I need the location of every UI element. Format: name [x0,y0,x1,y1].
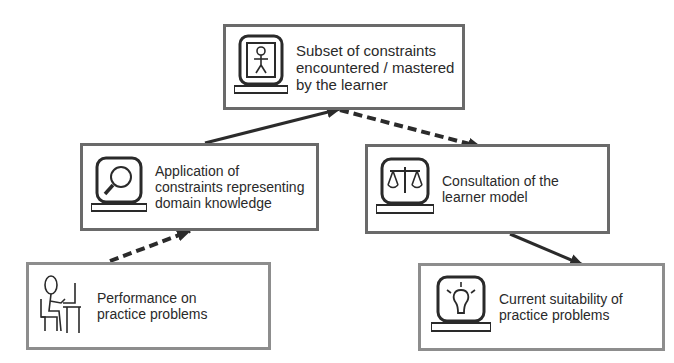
arrow-subset-to-consultation [340,110,481,147]
person-at-computer-icon [35,273,91,339]
node-learner-model-consultation: Consultation of the learner model [365,144,610,234]
node-constraint-application: Application of constraints representing … [80,143,319,231]
node-problem-suitability: Current suitability of practice problems [418,263,665,351]
magnifier-monitor-icon [91,154,147,220]
node-label: Consultation of the learner model [442,173,592,205]
node-practice-performance: Performance on practice problems [26,262,271,350]
scales-monitor-icon [376,157,434,221]
learner-monitor-icon [234,32,288,102]
node-label: Performance on practice problems [97,290,237,322]
arrow-performance-to-application [110,231,190,261]
node-label: Subset of constraints encountered / mast… [296,42,456,93]
arrow-application-to-subset [205,109,340,143]
node-label: Application of constraints representing … [155,163,305,211]
arrow-consultation-to-suitability [510,234,583,265]
lightbulb-monitor-icon [431,275,491,339]
node-label: Current suitability of practice problems [499,291,659,323]
node-constraints-subset: Subset of constraints encountered / mast… [223,24,465,110]
